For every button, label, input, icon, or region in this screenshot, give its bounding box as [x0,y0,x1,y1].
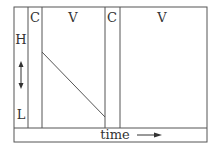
column-label-c2: C [107,10,117,25]
outer-frame [14,7,207,142]
column-label-c1: C [30,10,40,25]
column-label-v2: V [156,10,167,25]
time-label: time [100,127,130,142]
axis-label-high: H [15,32,26,47]
descending-line [42,52,105,117]
axis-label-low: L [17,107,26,122]
double-vertical-arrow-icon [19,61,24,89]
right-arrow-icon [137,133,162,138]
diagram-canvas: C V C V H L time [0,0,214,150]
column-label-v1: V [67,10,78,25]
